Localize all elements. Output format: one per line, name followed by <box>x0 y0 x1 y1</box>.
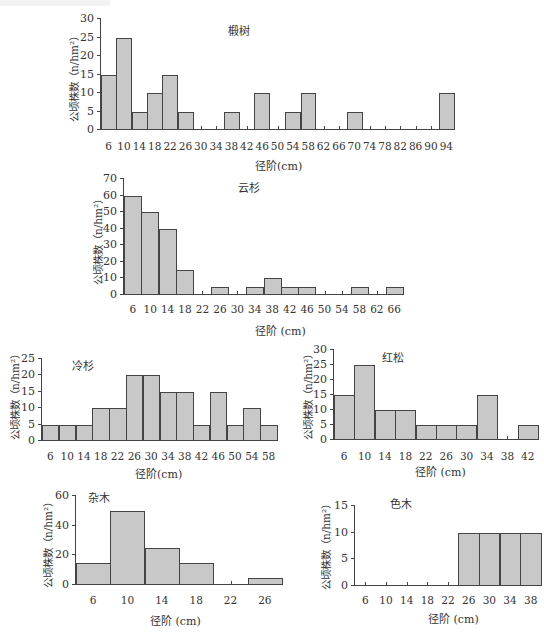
y-tick-mark <box>120 211 124 212</box>
bar <box>416 425 437 440</box>
y-tick-mark <box>72 495 76 496</box>
chart-title: 冷杉 <box>72 357 94 373</box>
y-tick-mark <box>97 111 101 112</box>
x-tick-mark <box>386 582 387 586</box>
x-axis-label: 径阶 (cm) <box>150 612 201 628</box>
x-tick-mark <box>342 291 343 295</box>
bar <box>159 229 177 295</box>
x-tick-label: 22 <box>219 595 243 606</box>
y-tick-mark <box>351 532 355 533</box>
chart-title: 椴树 <box>228 22 250 38</box>
y-tick-mark <box>120 228 124 229</box>
y-tick-mark <box>38 407 42 408</box>
x-tick-label: 42 <box>516 451 540 462</box>
bar <box>354 365 375 440</box>
bar <box>178 112 194 131</box>
y-tick-mark <box>120 244 124 245</box>
y-tick-mark <box>97 129 101 130</box>
bar <box>281 287 299 295</box>
x-tick-mark <box>202 291 203 295</box>
chart-title: 杂木 <box>88 489 110 505</box>
bar <box>160 392 177 441</box>
bar <box>246 287 264 295</box>
y-axis-label: 公顷株数（n/hm²） <box>40 497 55 588</box>
y-axis-label: 公顷株数（n/hm²） <box>90 194 105 285</box>
bar <box>520 533 541 586</box>
x-tick-mark <box>370 126 371 130</box>
x-tick-mark <box>201 126 202 130</box>
y-tick-mark <box>97 18 101 19</box>
x-tick-label: 18 <box>184 595 208 606</box>
bar <box>243 408 260 441</box>
x-tick-mark <box>247 126 248 130</box>
y-tick-mark <box>330 424 334 425</box>
bar <box>116 38 132 131</box>
y-tick-mark <box>120 178 124 179</box>
x-tick-mark <box>278 126 279 130</box>
x-axis-label: 径阶 (cm) <box>255 322 306 338</box>
x-tick-mark <box>416 126 417 130</box>
y-tick-label: 70 <box>93 173 117 184</box>
y-tick-mark <box>38 358 42 359</box>
bar <box>436 425 457 440</box>
y-tick-mark <box>120 277 124 278</box>
bar <box>132 112 148 131</box>
chart-title: 红松 <box>382 349 404 365</box>
x-tick-mark <box>427 582 428 586</box>
y-tick-mark <box>120 261 124 262</box>
bar <box>124 196 142 295</box>
y-tick-mark <box>330 394 334 395</box>
y-tick-mark <box>72 584 76 585</box>
x-tick-mark <box>237 291 238 295</box>
y-tick-mark <box>97 37 101 38</box>
bar <box>386 287 404 295</box>
bar <box>211 287 229 295</box>
bar <box>227 425 244 441</box>
bar <box>179 563 214 585</box>
chart-title: 色木 <box>390 495 412 511</box>
bar <box>260 425 277 441</box>
bar <box>285 112 301 131</box>
y-tick-mark <box>120 294 124 295</box>
bar <box>375 410 396 440</box>
y-axis-label: 公顷株数（n/hm²） <box>7 349 22 440</box>
y-tick-mark <box>330 364 334 365</box>
y-tick-mark <box>330 439 334 440</box>
cropped-caption-text <box>0 0 110 6</box>
bar <box>76 425 93 441</box>
y-tick-mark <box>330 409 334 410</box>
y-tick-mark <box>72 554 76 555</box>
y-tick-mark <box>351 558 355 559</box>
x-tick-mark <box>377 291 378 295</box>
y-tick-mark <box>330 379 334 380</box>
x-tick-mark <box>339 126 340 130</box>
y-tick-label: 0 <box>70 124 94 135</box>
x-tick-mark <box>407 582 408 586</box>
bar <box>109 408 126 441</box>
bar <box>143 375 160 441</box>
y-tick-mark <box>351 585 355 586</box>
bar <box>210 392 227 441</box>
y-tick-mark <box>38 374 42 375</box>
x-tick-mark <box>431 126 432 130</box>
x-tick-label: 10 <box>116 595 140 606</box>
bar <box>110 511 145 585</box>
y-tick-mark <box>72 525 76 526</box>
y-tick-mark <box>97 92 101 93</box>
bar <box>162 75 178 131</box>
bar <box>147 93 163 130</box>
y-axis-label: 公顷株数（n/hm²） <box>300 349 315 440</box>
y-tick-label: 30 <box>70 13 94 24</box>
bar <box>101 75 117 131</box>
x-tick-mark <box>325 291 326 295</box>
y-tick-mark <box>97 55 101 56</box>
bar <box>439 93 455 130</box>
bar <box>477 395 498 440</box>
x-tick-label: 94 <box>434 141 458 152</box>
bar <box>145 548 180 585</box>
bar <box>92 408 109 441</box>
x-tick-mark <box>448 582 449 586</box>
x-tick-label: 58 <box>257 451 281 462</box>
x-axis-label: 径阶(cm) <box>135 465 182 481</box>
bar <box>458 533 479 586</box>
